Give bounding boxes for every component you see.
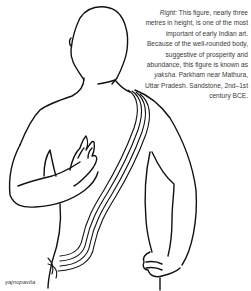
right-shoulder xyxy=(135,90,196,265)
right-arm-inner xyxy=(145,152,152,252)
caption-lead: Right: xyxy=(160,9,177,16)
raised-hand xyxy=(70,136,97,186)
head-outline xyxy=(71,7,128,84)
page: Right: This figure, nearly three metres … xyxy=(0,0,251,291)
torso-left xyxy=(48,204,61,288)
caption-term: yaksha xyxy=(154,71,175,78)
caption-text-1: This figure, nearly three metres in heig… xyxy=(145,9,248,68)
left-shoulder xyxy=(20,78,84,145)
figure-caption: Right: This figure, nearly three metres … xyxy=(140,8,248,102)
yajnopavita-label: yajnopavita xyxy=(5,279,35,285)
yajnopavita-thread xyxy=(48,90,149,278)
